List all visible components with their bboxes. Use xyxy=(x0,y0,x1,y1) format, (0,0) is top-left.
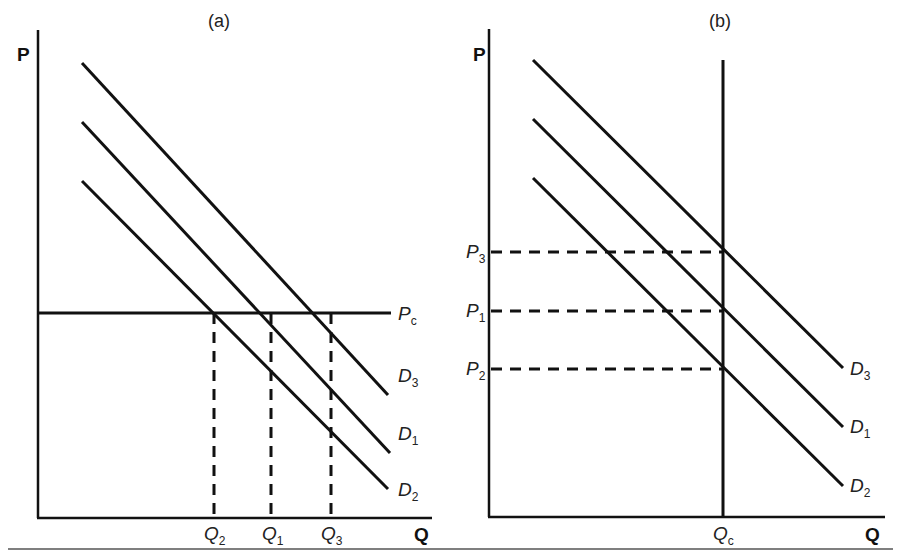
demand-curve-d2-b xyxy=(533,178,843,486)
label-qc: Qc xyxy=(713,523,734,548)
label-d3-b: D3 xyxy=(850,358,871,383)
label-q3: Q3 xyxy=(321,523,343,548)
demand-curve-d1-b xyxy=(533,119,843,427)
demand-curve-d1 xyxy=(82,122,390,453)
label-d2: D2 xyxy=(398,479,419,504)
label-d1: D1 xyxy=(398,423,419,448)
panel-a-title: (a) xyxy=(208,11,230,31)
figure: (a) P Pc D3 D1 D2 Q2 Q1 Q3 Q (b) P xyxy=(0,0,898,558)
label-p3: P3 xyxy=(466,241,486,266)
label-d1-b: D1 xyxy=(850,416,871,441)
label-p2: P2 xyxy=(466,358,486,383)
label-q1: Q1 xyxy=(262,523,284,548)
label-d3: D3 xyxy=(398,365,419,390)
label-d2-b: D2 xyxy=(850,475,871,500)
panel-a-y-axis-label: P xyxy=(17,44,30,65)
panel-a: (a) P Pc D3 D1 D2 Q2 Q1 Q3 Q xyxy=(17,11,432,548)
panel-b: (b) P P3 P1 P2 D3 D1 D2 Qc Q xyxy=(466,11,885,548)
panel-b-title: (b) xyxy=(709,11,731,31)
label-p1: P1 xyxy=(466,300,486,325)
panel-b-x-axis-label: Q xyxy=(865,524,880,545)
demand-curve-d3-b xyxy=(533,60,843,368)
panel-b-y-axis-label: P xyxy=(473,44,486,65)
panel-a-x-axis-label: Q xyxy=(414,524,429,545)
label-pc: Pc xyxy=(398,303,417,328)
label-q2: Q2 xyxy=(204,523,226,548)
